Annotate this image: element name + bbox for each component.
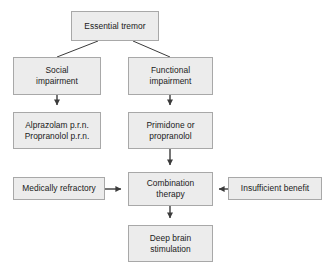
node-label: Primidone or propranolol	[144, 120, 196, 142]
edge-essential-tremor-to-functional-impairment	[133, 41, 170, 57]
node-deep-brain-stimulation: Deep brain stimulation	[128, 225, 213, 262]
edge-essential-tremor-to-social-impairment	[57, 41, 98, 57]
node-label: Social impairment	[34, 65, 80, 87]
node-functional-impairment: Functional impairment	[128, 57, 213, 95]
node-label: Essential tremor	[82, 21, 147, 32]
flowchart-canvas: Essential tremor Social impairment Funct…	[0, 0, 326, 270]
node-label: Deep brain stimulation	[148, 233, 193, 255]
node-alprazolam-propranolol-prn: Alprazolam p.r.n. Propranolol p.r.n.	[13, 112, 101, 149]
node-medically-refractory: Medically refractory	[13, 177, 105, 200]
node-label: Combination therapy	[145, 178, 197, 200]
node-social-impairment: Social impairment	[13, 57, 101, 95]
node-combination-therapy: Combination therapy	[128, 172, 213, 206]
node-label: Functional impairment	[148, 65, 194, 87]
node-essential-tremor: Essential tremor	[71, 11, 159, 41]
node-primidone-or-propranolol: Primidone or propranolol	[128, 112, 213, 149]
node-label: Alprazolam p.r.n. Propranolol p.r.n.	[23, 120, 92, 142]
node-label: Insufficient benefit	[239, 183, 311, 194]
node-insufficient-benefit: Insufficient benefit	[228, 177, 322, 200]
node-label: Medically refractory	[20, 183, 98, 194]
